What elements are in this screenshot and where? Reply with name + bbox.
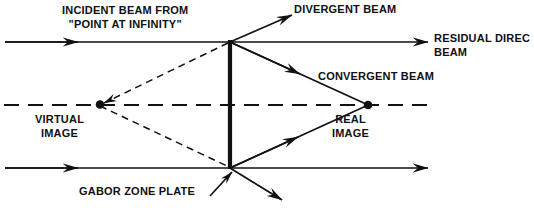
virtual-image-construction-line-lower xyxy=(100,106,229,167)
convergent-beam-upper-arrowhead-segment xyxy=(230,42,300,74)
label-virtual-image-line2: IMAGE xyxy=(35,127,84,141)
label-residual-direct-beam-line1: RESIDUAL DIREC xyxy=(434,32,530,46)
label-gabor-zone-plate: GABOR ZONE PLATE xyxy=(79,185,195,199)
virtual-image-point-dot xyxy=(96,100,105,109)
label-residual-direct-beam: RESIDUAL DIREC BEAM xyxy=(434,32,530,59)
gabor-zone-plate-pointer-arrow xyxy=(210,172,232,196)
label-virtual-image: VIRTUAL IMAGE xyxy=(35,113,84,140)
virtual-image-construction-line-upper xyxy=(104,43,228,103)
label-incident-beam-line1: INCIDENT BEAM FROM xyxy=(62,4,188,18)
label-virtual-image-line1: VIRTUAL xyxy=(35,113,84,127)
label-real-image: REAL IMAGE xyxy=(332,113,369,140)
label-divergent-beam: DIVERGENT BEAM xyxy=(294,3,396,17)
label-convergent-beam-text: CONVERGENT BEAM xyxy=(318,70,434,84)
label-gabor-zone-plate-text: GABOR ZONE PLATE xyxy=(79,185,195,199)
divergent-beam-lower-ray xyxy=(230,168,282,200)
gabor-zone-plate-diagram: INCIDENT BEAM FROM "POINT AT INFINITY" D… xyxy=(0,0,534,208)
label-real-image-line1: REAL xyxy=(332,113,369,127)
convergent-beam-lower-arrowhead-segment xyxy=(230,137,298,168)
label-incident-beam: INCIDENT BEAM FROM "POINT AT INFINITY" xyxy=(62,4,188,31)
label-convergent-beam: CONVERGENT BEAM xyxy=(318,70,434,84)
label-divergent-beam-text: DIVERGENT BEAM xyxy=(294,3,396,17)
divergent-beam-upper-ray xyxy=(230,15,292,42)
label-residual-direct-beam-line2: BEAM xyxy=(434,46,530,60)
label-incident-beam-line2: "POINT AT INFINITY" xyxy=(62,18,188,32)
label-real-image-line2: IMAGE xyxy=(332,127,369,141)
real-image-point-dot xyxy=(364,101,373,110)
